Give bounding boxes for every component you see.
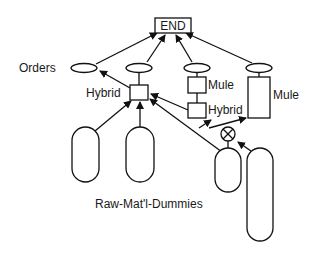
- orders-place[interactable]: [71, 64, 97, 73]
- edge-place4-to-end: [186, 33, 252, 63]
- mule-right-node[interactable]: [248, 77, 270, 118]
- xor-junction-icon[interactable]: [221, 127, 235, 141]
- mule-right-label: Mule: [273, 88, 299, 102]
- raw-material-3[interactable]: [215, 148, 241, 192]
- raw-material-2[interactable]: [126, 127, 154, 182]
- place-3[interactable]: [184, 64, 210, 73]
- edge-place3-to-end: [176, 35, 192, 62]
- process-diagram: END Orders Hybrid Mule Hybrid Mule Raw-M…: [0, 0, 319, 257]
- edge-hybridmid-to-hybrid: [151, 94, 188, 110]
- edge-raw4-to-xor: [238, 142, 251, 151]
- edge-raw1-to-hybrid: [95, 101, 131, 131]
- raw-material-1[interactable]: [72, 127, 99, 182]
- hybrid-middle-node[interactable]: [188, 103, 206, 118]
- orders-label: Orders: [19, 61, 56, 75]
- hybrid-left-node[interactable]: [130, 85, 148, 100]
- hybrid-middle-label: Hybrid: [208, 103, 243, 117]
- place-2[interactable]: [126, 64, 152, 73]
- end-label: END: [160, 19, 186, 33]
- raw-materials-label: Raw-Mat'l-Dummies: [95, 197, 203, 211]
- edge-orders-to-end: [96, 33, 157, 64]
- edge-xor-to-hybridmid: [199, 120, 211, 128]
- raw-material-4[interactable]: [247, 148, 273, 241]
- mule-middle-node[interactable]: [188, 77, 206, 93]
- hybrid-left-label: Hybrid: [86, 86, 121, 100]
- edge-place2-to-end: [147, 35, 165, 62]
- mule-middle-label: Mule: [208, 78, 234, 92]
- place-4[interactable]: [246, 64, 272, 73]
